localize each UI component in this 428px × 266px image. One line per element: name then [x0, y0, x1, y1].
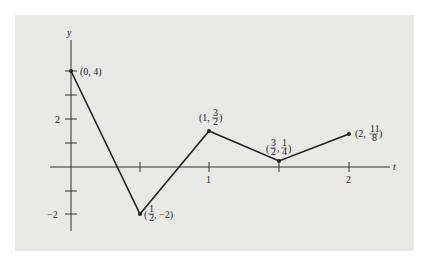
data-points — [69, 69, 351, 216]
svg-text:): ) — [379, 128, 382, 140]
line-chart: 1 2 2 −2 y t (0, 4) ( 1 2 , −2) (1, 3 2 … — [0, 0, 428, 266]
point-label-1: ( 1 2 , −2) — [144, 203, 173, 223]
y-tick-label-2: 2 — [55, 114, 60, 125]
svg-text:(1,: (1, — [199, 112, 210, 124]
svg-text:(: ( — [266, 143, 270, 155]
point-label-2: (1, 3 2 ) — [199, 107, 222, 127]
svg-text:, −2): , −2) — [154, 209, 173, 221]
svg-text:2: 2 — [271, 146, 276, 157]
point-label-0: (0, 4) — [80, 66, 102, 78]
svg-text:8: 8 — [372, 132, 377, 143]
x-tick-label-2: 2 — [346, 174, 351, 185]
svg-text:,: , — [277, 142, 280, 153]
svg-text:4: 4 — [282, 146, 287, 157]
svg-text:(: ( — [144, 209, 148, 221]
svg-text:): ) — [288, 143, 291, 155]
point-label-3: ( 3 2 , 1 4 ) — [266, 137, 291, 157]
svg-text:(2,: (2, — [355, 128, 366, 140]
svg-text:2: 2 — [213, 116, 218, 127]
x-tick-label-1: 1 — [206, 174, 211, 185]
data-line — [71, 71, 349, 214]
point-label-4: (2, 11 8 ) — [355, 123, 382, 143]
y-axis-label: y — [66, 27, 72, 38]
y-tick-label-neg2: −2 — [47, 209, 58, 220]
svg-text:): ) — [219, 112, 222, 124]
x-axis-label: t — [393, 161, 396, 172]
